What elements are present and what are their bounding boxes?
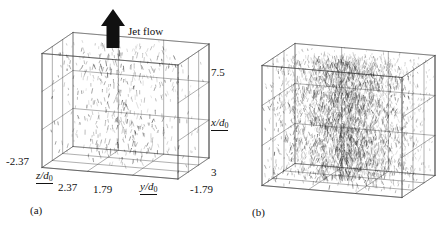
y-axis-max-label: 1.79 (93, 184, 112, 195)
x-axis-title-subscript: 0 (224, 121, 228, 130)
z-axis-max-label: 2.37 (58, 182, 77, 193)
z-axis-title-text: z/d (36, 169, 49, 181)
x-axis-min-label: 3 (211, 167, 217, 178)
y-axis-min-label: -1.79 (190, 184, 213, 195)
up-arrow-icon (101, 9, 125, 48)
x-axis-title: x/d0 (211, 117, 228, 131)
y-axis-title: y/d0 (140, 181, 157, 195)
panel-a-tag: (a) (30, 205, 42, 216)
x-axis-title-text: x/d (211, 116, 224, 128)
y-axis-title-text: y/d (140, 180, 153, 192)
y-axis-title-subscript: 0 (153, 185, 157, 194)
z-axis-title-subscript: 0 (49, 174, 53, 183)
x-axis-max-label: 7.5 (211, 67, 225, 78)
jet-flow-label: Jet flow (128, 26, 163, 37)
panel-b-tag: (b) (252, 207, 265, 218)
z-axis-title: z/d0 (36, 170, 53, 184)
figure-container: Jet flow -2.37 2.37 1.79 -1.79 7.5 3 z/d… (0, 0, 448, 234)
z-axis-min-label: -2.37 (6, 156, 29, 167)
